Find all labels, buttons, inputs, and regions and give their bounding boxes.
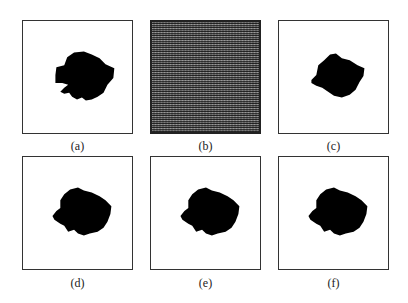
panel-label-b: (b) bbox=[150, 139, 261, 154]
blob-shape-e bbox=[151, 157, 260, 269]
panel-c bbox=[278, 20, 389, 134]
panel-label-e: (e) bbox=[150, 276, 261, 291]
blob-shape-c bbox=[279, 21, 388, 133]
blob-shape-f bbox=[279, 157, 388, 269]
panel-e bbox=[150, 156, 261, 270]
panel-d bbox=[22, 156, 133, 270]
blob-shape-d bbox=[23, 157, 132, 269]
panel-label-d: (d) bbox=[22, 276, 133, 291]
blob-shape-a bbox=[23, 21, 132, 133]
panel-f bbox=[278, 156, 389, 270]
panel-label-f: (f) bbox=[278, 276, 389, 291]
panel-label-c: (c) bbox=[278, 139, 389, 154]
panel-a bbox=[22, 20, 133, 134]
panel-b bbox=[150, 20, 261, 134]
panel-label-a: (a) bbox=[22, 139, 133, 154]
